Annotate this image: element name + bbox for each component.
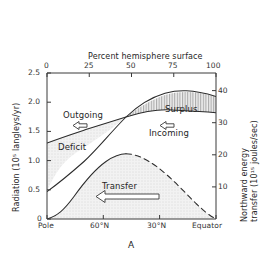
bottom-tick-label-equator: Equator bbox=[192, 221, 222, 230]
right-tick-label-40: 40 bbox=[218, 86, 228, 95]
right-tick-label-10: 10 bbox=[218, 182, 228, 191]
left-tick-label-0_5: 0.5 bbox=[28, 185, 40, 194]
left-tick-label-1_0: 1.0 bbox=[28, 156, 40, 165]
top-tick-label-0: 0 bbox=[44, 61, 49, 70]
right-tick-label-30: 30 bbox=[218, 118, 228, 127]
bottom-tick-label-60n: 60°N bbox=[90, 221, 109, 230]
right-axis-title-line2: transfer (10¹⁵ joules/sec) bbox=[250, 120, 259, 222]
left-tick-label-2_0: 2.0 bbox=[28, 97, 40, 106]
top-tick-label-100: 100 bbox=[206, 61, 221, 70]
top-tick-label-25: 25 bbox=[84, 61, 94, 70]
panel-label: A bbox=[128, 240, 134, 250]
radiation-balance-figure: Percent hemisphere surface 0 25 50 75 10… bbox=[0, 0, 264, 261]
right-axis-title-line1: Northward energy bbox=[240, 148, 249, 222]
annotation-deficit: Deficit bbox=[58, 142, 86, 152]
top-tick-label-50: 50 bbox=[126, 61, 136, 70]
left-axis-title: Radiation (10⁵ langleys/yr) bbox=[12, 103, 21, 212]
right-tick-label-20: 20 bbox=[218, 150, 228, 159]
top-tick-label-75: 75 bbox=[168, 61, 178, 70]
bottom-tick-label-30n: 30°N bbox=[147, 221, 166, 230]
annotation-surplus: Surplus bbox=[165, 104, 198, 114]
top-axis-title: Percent hemisphere surface bbox=[88, 52, 203, 61]
annotation-incoming: Incoming bbox=[149, 128, 189, 138]
bottom-tick-label-pole: Pole bbox=[38, 221, 54, 230]
annotation-transfer: Transfer bbox=[102, 181, 137, 191]
left-tick-label-2_5: 2.5 bbox=[28, 68, 40, 77]
annotation-outgoing: Outgoing bbox=[63, 110, 103, 120]
left-tick-label-1_5: 1.5 bbox=[28, 126, 40, 135]
